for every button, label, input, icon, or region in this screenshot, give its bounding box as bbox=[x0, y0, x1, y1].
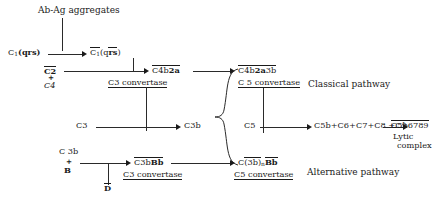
label-c3-convertase-classical: C3 convertase bbox=[108, 78, 167, 88]
label-c5-convertase-alternative: C5 convertase bbox=[234, 170, 293, 180]
node-c4b2a: C4b2a bbox=[152, 65, 180, 74]
node-antigen-antibody-aggregates: Ab-Ag aggregates bbox=[38, 6, 120, 15]
arrow-c3bbb-to-c3bnbb-line bbox=[171, 163, 231, 164]
connector-c1-enzyme-tick bbox=[133, 58, 134, 71]
arrow-c3bbb-to-c3bnbb-head bbox=[230, 160, 235, 166]
arrow-c5-cleavage-line bbox=[260, 127, 308, 128]
arrow-c3bbb-formation-line bbox=[80, 163, 127, 164]
node-c4b2a-bar: C4b2a bbox=[152, 65, 180, 74]
connector-c3b-split-brace bbox=[204, 62, 246, 172]
complement-cascade-diagram: Ab-Ag aggregates C1(qrs) C1(qrs) C2 + C4… bbox=[0, 0, 438, 202]
arrow-c3-to-c3b-line bbox=[96, 127, 177, 128]
arrow-c3bbb-formation-head bbox=[126, 160, 131, 166]
node-c3b-input: C 3b bbox=[59, 147, 78, 155]
arrow-c3-to-c3b-head bbox=[176, 124, 181, 130]
arrow-c1-activation-head bbox=[82, 51, 87, 57]
node-c5: C5 bbox=[244, 121, 255, 129]
node-c1-inactive-subunits: (qrs) bbox=[18, 47, 40, 57]
connector-antigen-to-c1 bbox=[62, 18, 63, 51]
label-alternative-pathway: Alternative pathway bbox=[307, 168, 399, 177]
arrow-c5-cleavage-head bbox=[307, 124, 312, 130]
arrow-c4b2a-formation-line bbox=[64, 71, 145, 72]
node-c3bbb-bar: C3bBb bbox=[134, 157, 163, 166]
node-c3b: C3b bbox=[184, 121, 201, 129]
arrow-c4b2a-formation-head bbox=[144, 68, 149, 74]
node-c1-activated-close: ) bbox=[117, 47, 120, 57]
node-factor-d: D bbox=[104, 183, 111, 192]
label-lytic-line2: complex bbox=[397, 141, 432, 149]
label-c3-convertase-alternative: C3 convertase bbox=[123, 170, 182, 180]
node-c1-activated-open: (q bbox=[100, 47, 108, 57]
node-c3bn-open: C(3b) bbox=[238, 157, 261, 166]
node-c3bbb: C3bBb bbox=[134, 157, 163, 166]
node-factor-b: B bbox=[64, 166, 71, 174]
node-c3bn-bb: C(3b)nBb bbox=[238, 157, 278, 168]
node-lytic-complex: C5b6789 bbox=[391, 120, 429, 129]
node-c4-substrate: C4 bbox=[44, 81, 55, 89]
connector-factor-d-tick bbox=[108, 163, 109, 185]
label-lytic-line1: Lytic bbox=[393, 132, 413, 140]
label-classical-pathway: Classical pathway bbox=[308, 80, 390, 89]
node-c1-activated: C1(qrs) bbox=[90, 47, 121, 58]
node-c3bn-bb-bold: Bb bbox=[265, 157, 278, 166]
node-c3: C3 bbox=[76, 121, 87, 129]
connector-classical-c3-convertase-to-c3 bbox=[146, 87, 147, 131]
arrow-c1-activation-line bbox=[48, 54, 83, 55]
node-c1-inactive: C1(qrs) bbox=[8, 48, 40, 58]
label-c5-convertase-classical: C 5 convertase bbox=[238, 78, 300, 88]
node-c1-activated-c: C1 bbox=[90, 47, 100, 58]
